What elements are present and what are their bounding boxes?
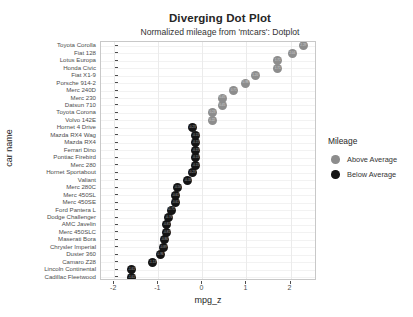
data-point[interactable] <box>191 161 200 170</box>
y-axis-tick-mark <box>115 90 118 91</box>
x-axis-tick-label: 2 <box>275 284 305 291</box>
gridline-horizontal <box>101 165 315 166</box>
y-axis-tick-mark <box>115 194 118 195</box>
y-axis-tick-label: Cadillac Fleetwood <box>45 273 97 280</box>
y-axis-tick-labels: Cadillac FleetwoodLincoln ContinentalCam… <box>18 41 96 280</box>
data-point[interactable] <box>191 131 200 140</box>
y-axis-tick-mark <box>115 119 118 120</box>
y-axis-tick-mark <box>115 75 118 76</box>
y-axis-tick-mark <box>115 209 118 210</box>
y-axis-tick-label: Hornet Sportabout <box>46 168 96 175</box>
gridline-horizontal <box>101 225 315 226</box>
y-axis-tick-label: Merc 280 <box>71 161 96 168</box>
y-axis-tick-label: Toyota Corona <box>56 108 96 115</box>
gridline-horizontal <box>101 105 315 106</box>
data-point[interactable] <box>218 94 227 103</box>
data-point[interactable] <box>148 258 157 267</box>
gridline-horizontal <box>101 240 315 241</box>
gridline-horizontal <box>101 76 315 77</box>
y-axis-tick-mark <box>115 97 118 98</box>
y-axis-tick-label: Toyota Corolla <box>57 41 96 48</box>
data-point[interactable] <box>208 116 217 125</box>
data-point[interactable] <box>191 146 200 155</box>
plot-panel: -1.61-1.61-1.13-0.96-0.89-0.86-0.81-0.81… <box>100 41 316 280</box>
data-point[interactable] <box>241 79 250 88</box>
y-axis-tick-label: Lotus Europa <box>60 56 96 63</box>
data-point[interactable] <box>171 191 180 200</box>
y-axis-tick-mark <box>115 224 118 225</box>
y-axis-tick-label: Hornet 4 Drive <box>57 123 96 130</box>
y-axis-tick-mark <box>115 60 118 61</box>
gridline-horizontal <box>101 158 315 159</box>
y-axis-tick-mark <box>115 202 118 203</box>
gridline-horizontal <box>101 83 315 84</box>
y-axis-tick-mark <box>115 187 118 188</box>
y-axis-tick-mark <box>115 261 118 262</box>
gridline-horizontal <box>101 218 315 219</box>
y-axis-tick-mark <box>115 239 118 240</box>
gridline-horizontal <box>101 210 315 211</box>
gridline-vertical <box>246 42 247 279</box>
y-axis-tick-mark <box>115 134 118 135</box>
x-axis-tick-label: 1 <box>230 284 260 291</box>
y-axis-tick-label: Fiat 128 <box>74 49 96 56</box>
y-axis-tick-mark <box>115 246 118 247</box>
gridline-horizontal <box>101 128 315 129</box>
y-axis-tick-mark <box>115 82 118 83</box>
gridline-horizontal <box>101 135 315 136</box>
gridline-horizontal <box>101 53 315 54</box>
data-point[interactable] <box>229 86 238 95</box>
data-point[interactable] <box>162 228 171 237</box>
y-axis-tick-mark <box>115 45 118 46</box>
data-point[interactable] <box>251 71 260 80</box>
y-axis-tick-mark <box>115 104 118 105</box>
data-point[interactable] <box>299 41 308 50</box>
y-axis-tick-mark <box>115 276 118 277</box>
legend-label: Above Average <box>347 155 397 164</box>
x-axis-tick-label: -1 <box>142 284 172 291</box>
gridline-horizontal <box>101 180 315 181</box>
y-axis-tick-mark <box>115 142 118 143</box>
gridline-horizontal <box>101 247 315 248</box>
data-point[interactable] <box>273 56 282 65</box>
y-axis-tick-label: Merc 240D <box>66 86 96 93</box>
y-axis-title: car name <box>4 113 14 183</box>
y-axis-tick-mark <box>115 254 118 255</box>
x-axis-tick-label: -2 <box>98 284 128 291</box>
diverging-dot-plot: Diverging Dot Plot Normalized mileage fr… <box>0 0 413 317</box>
y-axis-tick-mark <box>115 269 118 270</box>
data-point[interactable] <box>288 49 297 58</box>
y-axis-tick-mark <box>115 157 118 158</box>
legend-items: Above AverageBelow Average <box>328 152 410 182</box>
y-axis-tick-label: Porsche 914-2 <box>56 79 96 86</box>
gridline-horizontal <box>101 61 315 62</box>
data-point[interactable] <box>159 243 168 252</box>
legend-label: Below Average <box>347 170 396 179</box>
y-axis-tick-label: Ferrari Dino <box>64 146 96 153</box>
y-axis-tick-label: Chrysler Imperial <box>50 243 96 250</box>
y-axis-tick-label: Merc 280C <box>66 183 96 190</box>
y-axis-tick-label: Merc 230 <box>71 94 96 101</box>
gridline-horizontal <box>101 195 315 196</box>
y-axis-tick-label: Maserati Bora <box>58 235 96 242</box>
chart-subtitle: Normalized mileage from 'mtcars': Dotplo… <box>88 27 352 37</box>
data-point[interactable] <box>208 108 217 117</box>
y-axis-tick-label: Ford Pantera L <box>55 206 96 213</box>
gridline-horizontal <box>101 143 315 144</box>
gridline-vertical <box>291 42 292 279</box>
data-point[interactable] <box>183 176 192 185</box>
legend-item-below[interactable]: Below Average <box>328 167 410 182</box>
y-axis-tick-mark <box>115 67 118 68</box>
gridline-horizontal <box>101 255 315 256</box>
data-point[interactable] <box>173 183 182 192</box>
gridline-vertical <box>202 42 203 279</box>
gridline-horizontal <box>101 46 315 47</box>
legend-title: Mileage <box>328 136 410 146</box>
gridline-vertical <box>114 42 115 279</box>
y-axis-tick-mark <box>115 112 118 113</box>
legend-item-above[interactable]: Above Average <box>328 152 410 167</box>
data-point[interactable] <box>127 265 136 274</box>
y-axis-tick-label: Fiat X1-9 <box>71 71 96 78</box>
y-axis-tick-label: Mazda RX4 Wag <box>50 131 96 138</box>
y-axis-tick-label: Merc 450SLC <box>59 228 96 235</box>
